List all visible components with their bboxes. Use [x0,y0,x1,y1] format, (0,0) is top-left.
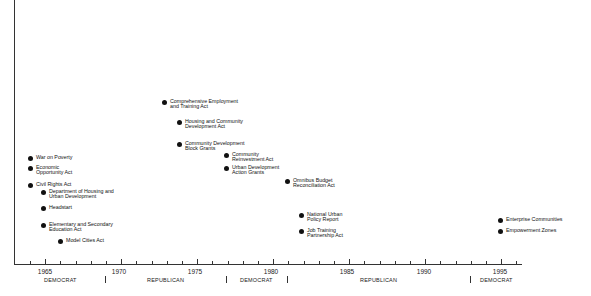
axis-tick [334,261,335,265]
event-label: National Urban Policy Report [307,212,342,223]
timeline-event: Housing and Community Development Act [177,119,243,130]
timeline-event: Headstart [41,205,72,211]
year-label: 1990 [409,268,439,275]
year-label: 1970 [104,268,134,275]
event-label: Housing and Community Development Act [185,119,243,130]
party-label: DEMOCRAT [240,277,273,283]
party-label: DEMOCRAT [480,277,513,283]
timeline-event: Elementary and Secondary Education Act [41,222,113,233]
event-marker-icon [177,142,182,147]
party-separator [226,276,227,283]
timeline-event: National Urban Policy Report [299,212,342,223]
axis-tick [516,261,517,265]
event-marker-icon [299,213,304,218]
event-label: Empowerment Zones [506,228,556,233]
party-label: REPUBLICAN [147,277,184,283]
event-label: Enterprise Communities [506,217,563,222]
event-marker-icon [41,206,46,211]
axis-tick [121,259,122,265]
axis-tick [501,259,502,265]
timeline-event: Community Reinvestment Act [224,152,273,163]
axis-tick [349,259,350,265]
party-label: REPUBLICAN [360,277,397,283]
axis-tick [471,261,472,265]
event-marker-icon [224,153,229,158]
event-marker-icon [224,166,229,171]
axis-tick [60,261,61,265]
year-label: 1965 [30,268,60,275]
timeline-event: War on Poverty [28,155,72,161]
party-label: DEMOCRAT [44,277,77,283]
axis-tick [243,261,244,265]
event-label: Urban Development Action Grants [232,165,279,176]
event-marker-icon [41,190,46,195]
event-label: War on Poverty [36,155,72,160]
axis-tick [319,261,320,265]
axis-tick [197,259,198,265]
event-marker-icon [177,120,182,125]
axis-tick [167,261,168,265]
event-marker-icon [28,166,33,171]
event-label: Omnibus Budget Reconciliation Act [293,178,335,189]
event-marker-icon [28,156,33,161]
axis-tick [228,261,229,265]
axis-tick [106,261,107,265]
timeline-event: Model Cities Act [58,238,104,244]
year-label: 1995 [485,268,515,275]
timeline-event: Department of Housing and Urban Developm… [41,189,114,200]
party-separator [287,276,288,283]
event-label: Headstart [49,205,72,210]
axis-tick [136,261,137,265]
event-label: Elementary and Secondary Education Act [49,222,113,233]
event-label: Economic Opportunity Act [36,165,72,176]
axis-tick [182,261,183,265]
year-label: 1975 [180,268,210,275]
axis-tick [91,261,92,265]
party-separator [105,276,106,283]
event-marker-icon [162,100,167,105]
axis-tick [30,261,31,265]
axis-tick [152,261,153,265]
axis-tick [395,261,396,265]
vertical-axis-line [14,0,15,265]
year-label: 1985 [332,268,362,275]
axis-tick [486,261,487,265]
axis-tick [288,261,289,265]
timeline-event: Enterprise Communities [498,217,563,223]
timeline-event: Urban Development Action Grants [224,165,279,176]
event-marker-icon [28,183,33,188]
axis-tick [273,259,274,265]
axis-tick [45,259,46,265]
timeline-event: Job Training Partnership Act [299,228,343,239]
event-label: Comprehensive Employment and Training Ac… [170,99,238,110]
party-separator [470,276,471,283]
axis-tick [364,261,365,265]
axis-tick [258,261,259,265]
year-label: 1980 [256,268,286,275]
timeline-event: Economic Opportunity Act [28,165,72,176]
axis-tick [410,261,411,265]
axis-tick [456,261,457,265]
event-marker-icon [498,229,503,234]
event-label: Department of Housing and Urban Developm… [49,189,114,200]
event-label: Community Reinvestment Act [232,152,273,163]
timeline-event: Empowerment Zones [498,228,556,234]
axis-tick [212,261,213,265]
event-label: Job Training Partnership Act [307,228,343,239]
axis-tick [425,259,426,265]
event-marker-icon [299,229,304,234]
timeline-event: Omnibus Budget Reconciliation Act [285,178,335,189]
event-marker-icon [58,239,63,244]
event-label: Civil Rights Act [36,182,71,187]
event-marker-icon [285,179,290,184]
event-label: Model Cities Act [66,238,104,243]
timeline-event: Comprehensive Employment and Training Ac… [162,99,238,110]
axis-tick [304,261,305,265]
axis-tick [380,261,381,265]
event-marker-icon [498,218,503,223]
axis-tick [76,261,77,265]
event-marker-icon [41,223,46,228]
axis-tick [440,261,441,265]
